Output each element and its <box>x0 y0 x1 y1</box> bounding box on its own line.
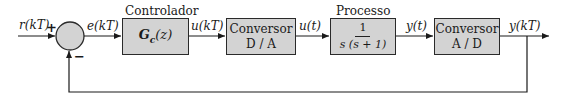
signal-u-kt: u(kT) <box>191 20 223 32</box>
signal-u-t: u(t) <box>299 20 321 32</box>
dac-label-line2: D / A <box>246 37 276 52</box>
controller-title: Controlador <box>125 5 199 17</box>
plant-transfer-function: 1 s (s + 1) <box>340 21 387 52</box>
dac-block: Conversor D / A <box>226 18 296 55</box>
signal-y-kt: y(kT) <box>509 20 540 32</box>
summing-junction <box>56 22 84 50</box>
signal-y-t: y(t) <box>406 20 427 32</box>
dac-label-line1: Conversor <box>230 22 293 37</box>
adc-block: Conversor A / D <box>434 18 500 55</box>
controller-block: Gc(z) <box>122 18 189 55</box>
adc-label-line1: Conversor <box>436 22 499 37</box>
signal-e: e(kT) <box>87 20 119 32</box>
adc-label-line2: A / D <box>452 37 482 52</box>
controller-transfer-function: Gc(z) <box>139 27 173 46</box>
signal-r: r(kT) <box>19 19 49 31</box>
minus-sign: − <box>74 50 85 63</box>
plus-sign: + <box>46 21 57 34</box>
plant-block: 1 s (s + 1) <box>330 18 396 55</box>
plant-title: Processo <box>336 5 390 17</box>
